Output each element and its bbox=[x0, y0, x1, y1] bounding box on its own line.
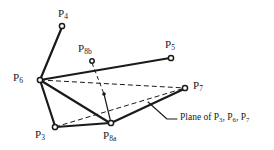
node-label-p6: P6 bbox=[13, 72, 23, 83]
node-label-p8a: P8a bbox=[103, 130, 116, 141]
edge-p3-p8a bbox=[56, 123, 110, 127]
edge-p6-p8a bbox=[40, 80, 110, 123]
node-label-p8b: P8b bbox=[78, 43, 92, 54]
node-label-p4: P4 bbox=[58, 8, 68, 19]
dashed-edge-group bbox=[40, 63, 185, 127]
edge-midpoint-p8a bbox=[104, 94, 111, 123]
node-label-p7: P7 bbox=[193, 80, 203, 91]
node-label-p3: P3 bbox=[35, 129, 45, 140]
node-marker-p7[interactable] bbox=[182, 85, 187, 90]
edge-p6-p5 bbox=[40, 58, 170, 80]
node-marker-p3[interactable] bbox=[52, 124, 57, 129]
node-marker-p8b[interactable] bbox=[90, 59, 94, 63]
edge-p3-p7-dashed bbox=[55, 88, 185, 127]
node-marker-p4[interactable] bbox=[59, 23, 64, 28]
node-marker-p8a[interactable] bbox=[108, 120, 113, 125]
edge-p8a-p7 bbox=[111, 89, 184, 123]
solid-edge-group bbox=[40, 27, 184, 127]
plane-callout-label: Plane of P3, P6, P7 bbox=[180, 113, 249, 123]
node-marker-p6[interactable] bbox=[37, 77, 42, 82]
node-marker-p5[interactable] bbox=[168, 55, 173, 60]
figure-canvas: P4 P8b P5 P6 P7 P3 P8a Plane of P3, P6, … bbox=[0, 0, 274, 150]
edge-p6-p7-dashed bbox=[40, 80, 185, 88]
edge-p8b-midpoint-dashed bbox=[92, 63, 104, 94]
node-marker-midpoint bbox=[102, 92, 106, 96]
node-label-p5: P5 bbox=[165, 39, 175, 50]
edge-p6-p4 bbox=[40, 27, 62, 80]
